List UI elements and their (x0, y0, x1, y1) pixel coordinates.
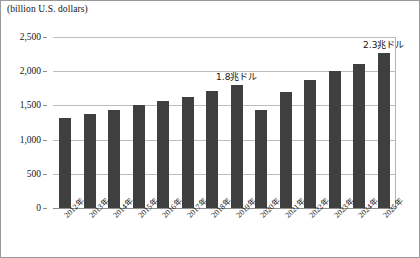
y-tick-mark (43, 174, 47, 175)
y-tick-label: 0 (36, 203, 41, 213)
bar (157, 101, 169, 208)
y-tick-mark (43, 71, 47, 72)
bar-chart-figure: (billion U.S. dollars) 05001,0001,5002,0… (0, 0, 420, 258)
y-tick-mark (43, 140, 47, 141)
bar (59, 118, 71, 208)
y-tick-label: 1,000 (20, 135, 41, 145)
y-tick-label: 500 (27, 169, 41, 179)
bar (255, 110, 267, 208)
y-tick-mark (43, 105, 47, 106)
y-tick-mark (43, 37, 47, 38)
plot-right-border (395, 37, 396, 208)
bar (133, 105, 145, 208)
x-axis: 2012年2013年2014年2015年2016年2017年2018年2019年… (53, 210, 396, 256)
y-tick-label: 2,000 (20, 66, 41, 76)
bar (304, 80, 316, 208)
unit-caption: (billion U.S. dollars) (7, 4, 88, 14)
bar-annotation: 2.3兆ドル (363, 38, 404, 51)
bar (206, 91, 218, 208)
bars-layer (53, 37, 396, 208)
y-tick-mark (43, 208, 47, 209)
y-tick-label: 1,500 (20, 100, 41, 110)
y-axis: 05001,0001,5002,0002,500 (1, 37, 47, 208)
bar (280, 92, 292, 208)
y-tick-label: 2,500 (20, 32, 41, 42)
bar (329, 71, 341, 208)
bar (231, 85, 243, 208)
bar (353, 64, 365, 208)
plot-area: 1.8兆ドル2.3兆ドル (53, 37, 396, 208)
bar-annotation: 1.8兆ドル (216, 70, 257, 83)
bar (378, 53, 390, 208)
bar (84, 114, 96, 208)
bar (108, 110, 120, 208)
bar (182, 97, 194, 208)
